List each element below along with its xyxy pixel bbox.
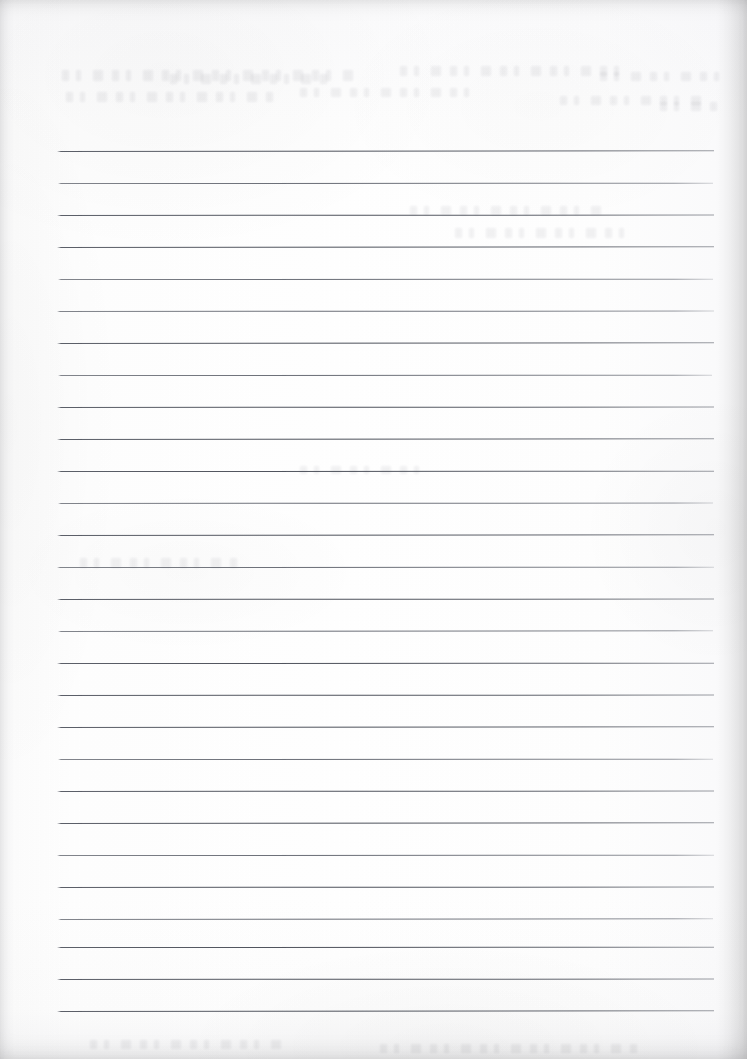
ruled-line [57, 214, 714, 216]
ruled-line [58, 375, 712, 376]
ruled-line [58, 759, 713, 760]
ruled-line [57, 598, 714, 600]
scanned-page [0, 0, 747, 1059]
ruled-line [57, 886, 714, 888]
ruled-line [57, 947, 714, 949]
ruled-line [57, 438, 714, 440]
ruled-line [57, 471, 714, 473]
ruled-line [57, 406, 714, 408]
ruled-line [58, 183, 713, 184]
ruled-line [58, 502, 713, 504]
ruled-line [57, 978, 714, 980]
ruled-line [57, 1010, 714, 1012]
ruled-line [57, 790, 714, 792]
ruled-line [57, 534, 714, 536]
ruled-line [57, 310, 714, 312]
ruled-line [57, 663, 714, 665]
ruled-line [57, 822, 714, 824]
ruled-line [57, 855, 714, 856]
ruled-line [58, 279, 713, 280]
ruled-lines-layer [0, 0, 747, 1059]
ruled-line [57, 694, 714, 696]
ruled-line [57, 150, 714, 152]
ruled-line [57, 342, 714, 344]
ruled-line [57, 726, 714, 728]
ruled-line [58, 918, 713, 920]
ruled-line [57, 246, 714, 248]
ruled-line [58, 630, 713, 632]
ruled-line [57, 567, 714, 568]
